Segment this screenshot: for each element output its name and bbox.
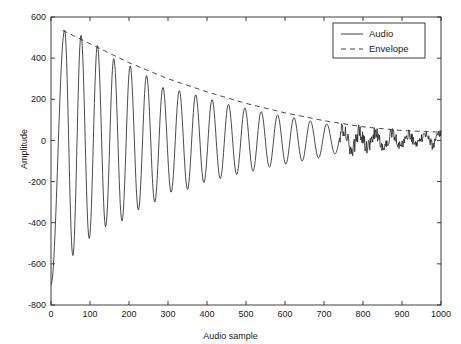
svg-text:1000: 1000 [431, 309, 451, 319]
svg-text:400: 400 [199, 309, 214, 319]
chart-figure: 01002003004005006007008009001000 -800-60… [0, 0, 461, 344]
svg-text:200: 200 [31, 94, 46, 104]
svg-text:-400: -400 [28, 218, 46, 228]
y-axis-label-wrapper: Amplitude [13, 109, 31, 189]
svg-text:200: 200 [121, 309, 136, 319]
svg-text:0: 0 [41, 136, 46, 146]
svg-text:-800: -800 [28, 300, 46, 310]
legend-label-audio: Audio [369, 28, 393, 39]
svg-text:500: 500 [238, 309, 253, 319]
svg-text:600: 600 [31, 12, 46, 22]
svg-text:0: 0 [48, 309, 53, 319]
x-axis-label: Audio sample [203, 331, 258, 341]
svg-text:100: 100 [82, 309, 97, 319]
chart-legend: AudioEnvelope [333, 23, 425, 58]
legend-label-envelope: Envelope [369, 43, 409, 54]
x-axis-label-wrapper: Audio sample [0, 325, 461, 343]
svg-text:700: 700 [316, 309, 331, 319]
chart-canvas: 01002003004005006007008009001000 -800-60… [0, 0, 461, 344]
series-audio [51, 30, 441, 284]
svg-text:600: 600 [277, 309, 292, 319]
svg-text:400: 400 [31, 53, 46, 63]
svg-text:900: 900 [394, 309, 409, 319]
svg-text:800: 800 [355, 309, 370, 319]
svg-text:-600: -600 [28, 259, 46, 269]
svg-text:300: 300 [160, 309, 175, 319]
y-axis-label: Amplitude [19, 129, 29, 169]
